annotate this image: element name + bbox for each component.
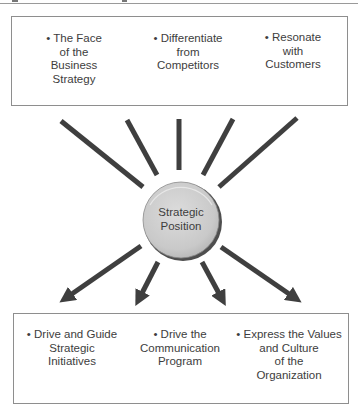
- center-label: Strategic Position: [143, 206, 219, 233]
- incoming-line-2: [127, 120, 157, 175]
- bottom-item-drive-initiatives: • Drive and Guide Strategic Initiatives: [22, 328, 122, 369]
- outgoing-arrow-4: [221, 247, 295, 298]
- outgoing-arrow-2: [139, 262, 158, 299]
- outgoing-arrow-1: [66, 246, 141, 298]
- bottom-item-values-culture: • Express the Values and Culture of the …: [230, 328, 348, 382]
- incoming-line-4: [203, 119, 233, 175]
- bottom-item-communication: • Drive the Communication Program: [138, 328, 222, 369]
- bottom-box: • Drive and Guide Strategic Initiatives …: [13, 313, 349, 404]
- outgoing-arrow-3: [202, 262, 222, 299]
- incoming-lines: [61, 118, 297, 187]
